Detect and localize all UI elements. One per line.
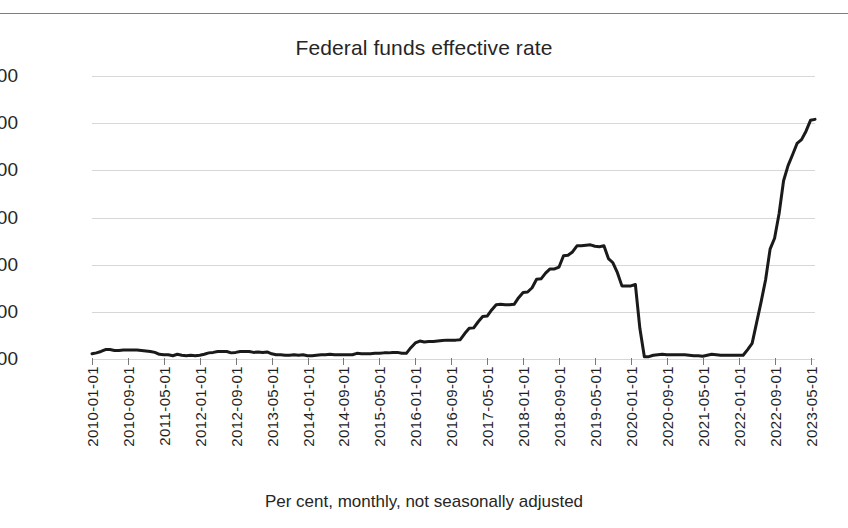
x-axis-tick-label: 2013-05-01 xyxy=(264,366,281,447)
x-axis-tick xyxy=(451,358,452,365)
chart-page: Federal funds effective rate 0.001.002.0… xyxy=(0,0,848,528)
x-axis-tick-label: 2016-01-01 xyxy=(407,366,424,447)
x-axis-tick xyxy=(236,358,237,365)
x-axis-tick-label: 2011-05-01 xyxy=(156,366,173,446)
x-axis-tick-label: 2014-01-01 xyxy=(300,366,317,447)
x-axis-tick-label: 2017-05-01 xyxy=(479,366,496,447)
x-axis-tick xyxy=(92,358,93,365)
series-federal-funds-rate xyxy=(92,76,815,359)
x-axis-tick xyxy=(595,358,596,365)
x-axis-tick xyxy=(379,358,380,365)
x-axis-tick xyxy=(811,358,812,365)
x-axis-tick-label: 2022-01-01 xyxy=(731,366,748,447)
y-axis-tick-label: 6.00 xyxy=(0,65,18,87)
x-axis-tick xyxy=(667,358,668,365)
y-axis-tick-label: 1.00 xyxy=(0,301,18,323)
x-axis-tick xyxy=(343,358,344,365)
x-axis-tick-label: 2018-09-01 xyxy=(551,366,568,447)
x-axis-tick xyxy=(415,358,416,365)
chart-caption: Per cent, monthly, not seasonally adjust… xyxy=(0,492,848,512)
x-axis-tick xyxy=(703,358,704,365)
x-axis-tick-label: 2010-01-01 xyxy=(84,366,101,447)
x-axis-tick-label: 2012-09-01 xyxy=(228,366,245,447)
x-axis-labels: 2010-01-012010-09-012011-05-012012-01-01… xyxy=(0,366,848,486)
x-axis-tick-label: 2020-09-01 xyxy=(659,366,676,447)
x-axis-tick-label: 2018-01-01 xyxy=(515,366,532,447)
x-axis-tick-label: 2016-09-01 xyxy=(443,366,460,447)
x-axis-tick xyxy=(775,358,776,365)
y-axis-tick-label: 4.00 xyxy=(0,159,18,181)
x-axis-tick-label: 2021-05-01 xyxy=(695,366,712,447)
x-axis-tick xyxy=(631,358,632,365)
x-axis-tick-label: 2010-09-01 xyxy=(120,366,137,447)
x-axis-tick-label: 2019-05-01 xyxy=(587,366,604,447)
x-axis-tick xyxy=(164,358,165,365)
y-axis-tick-label: 3.00 xyxy=(0,207,18,229)
x-axis-tick xyxy=(487,358,488,365)
x-axis-tick-label: 2015-05-01 xyxy=(371,366,388,447)
x-axis-tick xyxy=(272,358,273,365)
x-axis-tick-label: 2022-09-01 xyxy=(767,366,784,447)
y-axis-tick-label: 2.00 xyxy=(0,254,18,276)
plot-area xyxy=(92,76,815,359)
x-axis-tick xyxy=(200,358,201,365)
x-axis-tick-label: 2023-05-01 xyxy=(803,366,820,447)
chart-title: Federal funds effective rate xyxy=(0,36,848,60)
x-axis-tick-label: 2020-01-01 xyxy=(623,366,640,447)
x-axis-tick xyxy=(308,358,309,365)
y-axis-labels: 0.001.002.003.004.005.006.00 xyxy=(0,0,92,400)
x-axis-tick-label: 2012-01-01 xyxy=(192,366,209,447)
x-axis-tick xyxy=(739,358,740,365)
x-axis-tick xyxy=(523,358,524,365)
page-top-rule xyxy=(0,13,848,14)
x-axis-tick-label: 2014-09-01 xyxy=(335,366,352,447)
x-axis-tick xyxy=(128,358,129,365)
y-axis-tick-label: 5.00 xyxy=(0,112,18,134)
x-axis-tick xyxy=(559,358,560,365)
